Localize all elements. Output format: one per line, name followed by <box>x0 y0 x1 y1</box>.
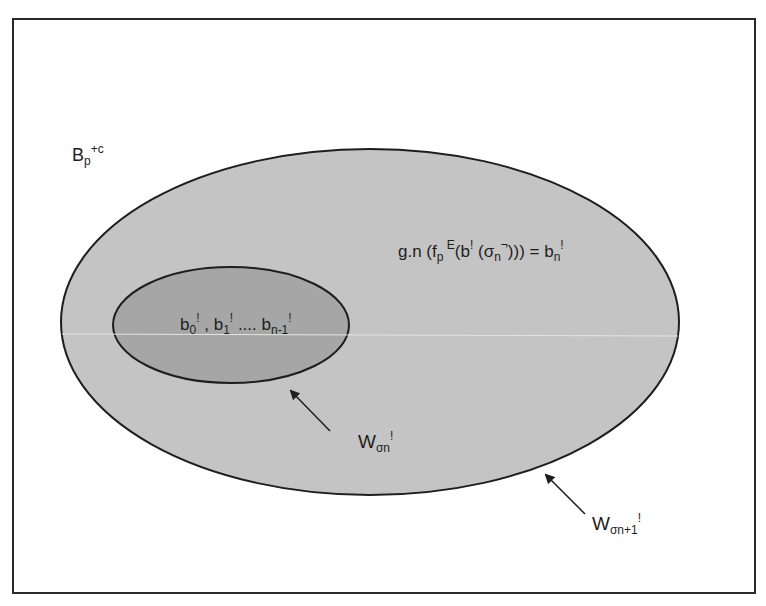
inner-label-sub: σn <box>376 441 390 455</box>
element-b1-sub: 1 <box>223 323 230 337</box>
inner-set-label: Wσn! <box>358 432 393 451</box>
element-sep1: , b <box>200 315 224 334</box>
outer-label-sup: ! <box>638 511 641 525</box>
inner-label-sup: ! <box>390 429 393 443</box>
outer-set-label: Wσn+1! <box>592 514 641 533</box>
inner-set-elements: b0! , b1! .... bn-1! <box>180 316 292 333</box>
element-bn1-sub: n-1 <box>271 323 288 337</box>
element-b1-sup: ! <box>230 311 233 325</box>
formula-sigma-sup: ¬ <box>501 238 508 252</box>
formula-prefix: g.n (f <box>398 242 437 261</box>
frame-label-base: B <box>72 145 84 165</box>
outer-set-formula: g.n (fp E(b! (σn¬))) = bn! <box>398 243 564 260</box>
frame-label: Bp+c <box>72 146 104 164</box>
formula-close: ))) = b <box>508 242 554 261</box>
element-sep2: .... b <box>233 315 271 334</box>
element-b0-sub: 0 <box>189 323 196 337</box>
inner-label-base: W <box>358 431 376 452</box>
element-bn1-sup: ! <box>288 311 291 325</box>
frame-label-sup: +c <box>91 142 104 156</box>
formula-mid: (b <box>455 242 470 261</box>
formula-sigma: (σ <box>473 242 494 261</box>
formula-f-sup: E <box>443 238 454 252</box>
diagram-canvas <box>0 0 766 606</box>
outer-label-base: W <box>592 513 610 534</box>
formula-bn-sup: ! <box>560 238 563 252</box>
formula-b-sup: ! <box>470 238 473 252</box>
formula-f-sub: p <box>437 250 444 264</box>
formula-bn-sub: n <box>554 250 561 264</box>
formula-sigma-sub: n <box>494 250 501 264</box>
outer-label-sub: σn+1 <box>610 523 638 537</box>
element-b0-sup: ! <box>196 311 199 325</box>
frame-label-sub: p <box>84 154 91 168</box>
